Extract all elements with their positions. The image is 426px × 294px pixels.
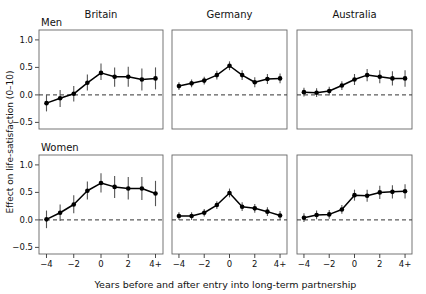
data-point-marker [403, 76, 408, 81]
x-tick-label: −2 [198, 259, 211, 269]
data-point-marker [153, 191, 158, 196]
x-axis-label: Years before and after entry into long-t… [94, 279, 357, 290]
data-point-marker [327, 212, 332, 217]
x-tick-label: 0 [227, 259, 232, 269]
data-point-marker [85, 81, 90, 86]
x-tick-label: −4 [173, 259, 186, 269]
panel-frame [172, 155, 287, 254]
panel-frame [297, 155, 412, 254]
data-point-marker [177, 214, 182, 219]
x-tick-label: 4+ [274, 259, 287, 269]
data-point-marker [278, 76, 283, 81]
x-tick-label: 0 [352, 259, 357, 269]
data-point-marker [352, 193, 357, 198]
panel-men-britain [39, 30, 163, 129]
data-point-marker [112, 185, 117, 190]
y-tick-label: 0.5 [19, 62, 33, 72]
data-point-marker [44, 101, 49, 106]
panel-women-germany [172, 155, 287, 258]
data-point-marker [99, 181, 104, 186]
data-point-marker [340, 207, 345, 212]
data-point-marker [302, 90, 307, 95]
panel-title-britain: Britain [85, 9, 118, 20]
data-point-marker [265, 77, 270, 82]
y-tick-label: 0.0 [19, 215, 33, 225]
x-tick-label: 0 [98, 259, 103, 269]
x-tick-label: −2 [323, 259, 336, 269]
data-point-marker [189, 214, 194, 219]
data-point-marker [112, 74, 117, 79]
data-point-marker [240, 204, 245, 209]
x-tick-label: −4 [40, 259, 53, 269]
data-point-marker [85, 188, 90, 193]
data-point-marker [314, 213, 319, 218]
x-tick-label: 2 [126, 259, 131, 269]
x-tick-label: −2 [67, 259, 80, 269]
data-point-marker [314, 90, 319, 95]
y-axis-label: Effect on life-satisfaction (0–10) [5, 70, 15, 213]
y-tick-label: 0.0 [19, 90, 33, 100]
data-point-marker [227, 63, 232, 68]
y-tick-label: −0.5 [12, 117, 33, 127]
panel-men-germany [172, 30, 287, 129]
figure-panel-grid: BritainGermanyAustraliaMenWomenEffect on… [0, 0, 426, 294]
x-tick-label: −4 [298, 259, 311, 269]
data-point-marker [99, 71, 104, 76]
data-point-marker [177, 84, 182, 89]
x-tick-label: 4+ [149, 259, 162, 269]
panel-women-britain [39, 155, 163, 258]
x-tick-label: 2 [252, 259, 257, 269]
multi-panel-line-chart: BritainGermanyAustraliaMenWomenEffect on… [0, 0, 426, 294]
data-point-marker [126, 186, 131, 191]
data-point-marker [327, 89, 332, 94]
x-tick-label: 2 [377, 259, 382, 269]
data-point-marker [390, 76, 395, 81]
panel-men-australia [297, 30, 412, 129]
data-point-marker [352, 77, 357, 82]
data-point-marker [227, 191, 232, 196]
y-tick-label: 0.5 [19, 187, 33, 197]
panel-frame [39, 155, 163, 254]
data-point-marker [215, 73, 220, 78]
group-label-women: Women [41, 142, 79, 153]
x-tick-label: 4+ [399, 259, 412, 269]
panel-title-australia: Australia [332, 9, 376, 20]
data-point-marker [71, 202, 76, 207]
data-point-marker [44, 217, 49, 222]
data-point-marker [377, 190, 382, 195]
data-point-marker [252, 206, 257, 211]
data-point-marker [403, 189, 408, 194]
data-point-marker [153, 76, 158, 81]
panel-title-germany: Germany [207, 9, 253, 20]
data-point-marker [202, 210, 207, 215]
y-tick-label: 1.0 [19, 35, 33, 45]
data-point-marker [390, 190, 395, 195]
data-point-marker [240, 73, 245, 78]
data-point-marker [302, 215, 307, 220]
data-point-marker [202, 78, 207, 83]
panel-women-australia [297, 155, 412, 258]
y-tick-label: 1.0 [19, 160, 33, 170]
group-label-men: Men [41, 17, 62, 28]
data-point-marker [365, 73, 370, 78]
data-point-marker [252, 80, 257, 85]
data-point-marker [58, 96, 63, 101]
data-point-marker [71, 92, 76, 97]
data-point-marker [377, 74, 382, 79]
data-point-marker [278, 213, 283, 218]
data-point-marker [58, 210, 63, 215]
y-tick-label: −0.5 [12, 242, 33, 252]
data-point-marker [340, 83, 345, 88]
data-point-marker [365, 193, 370, 198]
data-point-marker [126, 74, 131, 79]
data-point-marker [140, 186, 145, 191]
data-point-marker [189, 81, 194, 86]
data-point-marker [215, 203, 220, 208]
data-point-marker [140, 77, 145, 82]
data-point-marker [265, 209, 270, 214]
